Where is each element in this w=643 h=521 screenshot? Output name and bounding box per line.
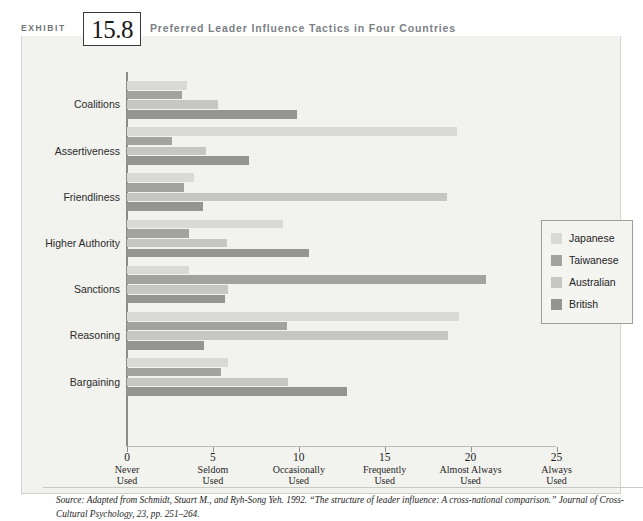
bar-australian — [127, 100, 218, 109]
tick-caption-line2: Used — [273, 475, 325, 487]
legend-swatch-australian — [551, 277, 562, 288]
bar-taiwanese — [127, 183, 184, 192]
tick-caption-line2: Used — [440, 475, 502, 487]
tick-label-group: 5SeldomUsed — [198, 452, 229, 487]
legend-label-british: British — [569, 298, 598, 310]
tick-caption-line1: Almost Always — [440, 464, 502, 476]
chart-panel: CoalitionsAssertivenessFriendlinessHighe… — [21, 36, 621, 494]
category-label: Friendliness — [63, 191, 120, 203]
bar-chart-plot — [126, 72, 556, 447]
bar-british — [127, 295, 225, 304]
bar-australian — [127, 378, 288, 387]
category-label: Sanctions — [74, 283, 120, 295]
source-note: Source: Adapted from Schmidt, Stuart M.,… — [56, 494, 634, 521]
legend-item-taiwanese: Taiwanese — [551, 252, 619, 268]
tick-value: 10 — [273, 452, 325, 464]
bar-japanese — [127, 358, 228, 367]
bar-japanese — [127, 81, 187, 90]
legend-item-australian: Australian — [551, 274, 616, 290]
tick-value: 5 — [198, 452, 229, 464]
tick-label-group: 0NeverUsed — [115, 452, 139, 487]
tick-value: 0 — [115, 452, 139, 464]
tick-label-group: 25AlwaysUsed — [541, 452, 572, 487]
tick-label-group: 20Almost AlwaysUsed — [440, 452, 502, 487]
tick-caption-line1: Seldom — [198, 464, 229, 476]
bar-japanese — [127, 173, 194, 182]
bar-taiwanese — [127, 137, 172, 146]
tick-caption-line2: Used — [198, 475, 229, 487]
bar-australian — [127, 193, 447, 202]
legend-label-japanese: Japanese — [569, 232, 615, 244]
bar-australian — [127, 285, 228, 294]
source-divider — [43, 487, 643, 488]
legend-label-taiwanese: Taiwanese — [569, 254, 619, 266]
bar-british — [127, 387, 347, 396]
bar-taiwanese — [127, 275, 486, 284]
legend-item-british: British — [551, 296, 598, 312]
category-axis-labels: CoalitionsAssertivenessFriendlinessHighe… — [22, 72, 120, 447]
category-label: Assertiveness — [55, 145, 120, 157]
bar-british — [127, 110, 297, 119]
tick-value: 25 — [541, 452, 572, 464]
tick-value: 20 — [440, 452, 502, 464]
category-label: Higher Authority — [45, 237, 120, 249]
category-label: Coalitions — [74, 98, 120, 110]
exhibit-number-box: 15.8 — [83, 12, 141, 46]
bar-british — [127, 341, 204, 350]
bar-australian — [127, 147, 206, 156]
tick-label-group: 10OccasionallyUsed — [273, 452, 325, 487]
category-label: Reasoning — [70, 329, 120, 341]
bar-japanese — [127, 220, 283, 229]
tick-caption-line2: Used — [541, 475, 572, 487]
bar-taiwanese — [127, 91, 182, 100]
bar-taiwanese — [127, 229, 189, 238]
bar-australian — [127, 239, 227, 248]
legend-swatch-japanese — [551, 233, 562, 244]
bar-taiwanese — [127, 368, 221, 377]
legend-item-japanese: Japanese — [551, 230, 615, 246]
bar-australian — [127, 331, 448, 340]
tick-value: 15 — [363, 452, 406, 464]
legend-swatch-british — [551, 299, 562, 310]
exhibit-number: 15.8 — [91, 17, 133, 42]
page-title: Preferred Leader Influence Tactics in Fo… — [150, 22, 456, 34]
chart-legend: JapaneseTaiwaneseAustralianBritish — [541, 220, 633, 324]
bar-japanese — [127, 312, 459, 321]
tick-caption-line1: Frequently — [363, 464, 406, 476]
tick-caption-line2: Used — [115, 475, 139, 487]
bar-japanese — [127, 266, 189, 275]
legend-swatch-taiwanese — [551, 255, 562, 266]
bar-british — [127, 202, 203, 211]
tick-caption-line2: Used — [363, 475, 406, 487]
bar-british — [127, 249, 309, 258]
tick-caption-line1: Never — [115, 464, 139, 476]
tick-caption-line1: Occasionally — [273, 464, 325, 476]
tick-caption-line1: Always — [541, 464, 572, 476]
bar-british — [127, 156, 249, 165]
exhibit-label: EXHIBIT — [21, 23, 66, 33]
category-label: Bargaining — [70, 376, 120, 388]
bar-japanese — [127, 127, 457, 136]
bar-taiwanese — [127, 322, 287, 331]
legend-label-australian: Australian — [569, 276, 616, 288]
tick-label-group: 15FrequentlyUsed — [363, 452, 406, 487]
